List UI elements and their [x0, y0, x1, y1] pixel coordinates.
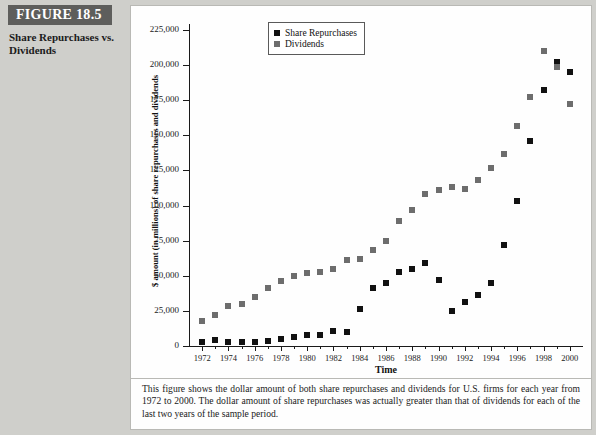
y-tick — [183, 30, 189, 31]
data-point — [488, 280, 494, 286]
data-point — [514, 198, 520, 204]
data-point — [422, 191, 428, 197]
x-tick — [255, 346, 256, 351]
data-point — [278, 278, 284, 284]
x-tick — [530, 346, 531, 349]
y-tick-label: 125,000 — [129, 164, 179, 174]
figure-page: FIGURE 18.5 Share Repurchases vs. Divide… — [0, 0, 596, 435]
data-point — [212, 337, 218, 343]
x-tick — [202, 346, 203, 351]
data-point — [239, 301, 245, 307]
x-tick — [425, 346, 426, 349]
data-point — [330, 266, 336, 272]
y-tick — [183, 65, 189, 66]
figure-number-label: FIGURE 18.5 — [16, 7, 102, 23]
data-point — [567, 101, 573, 107]
y-tick-label: 0 — [129, 340, 179, 350]
y-tick-label: 100,000 — [129, 200, 179, 210]
data-point — [330, 328, 336, 334]
data-point — [501, 151, 507, 157]
data-point — [567, 69, 573, 75]
x-tick — [307, 346, 308, 351]
data-point — [527, 94, 533, 100]
figure-sidebar: FIGURE 18.5 Share Repurchases vs. Divide… — [0, 0, 130, 435]
x-tick — [544, 346, 545, 351]
data-point — [225, 303, 231, 309]
data-point — [199, 339, 205, 345]
y-tick-label: 150,000 — [129, 129, 179, 139]
data-point — [501, 242, 507, 248]
x-tick — [281, 346, 282, 351]
data-point — [225, 339, 231, 345]
y-tick — [183, 311, 189, 312]
data-point — [383, 280, 389, 286]
data-point — [317, 332, 323, 338]
y-tick — [183, 241, 189, 242]
data-point — [239, 339, 245, 345]
chart-legend: Share Repurchases Dividends — [268, 22, 365, 55]
data-point — [449, 308, 455, 314]
y-tick — [183, 135, 189, 136]
data-point — [409, 207, 415, 213]
data-point — [304, 332, 310, 338]
x-tick — [333, 346, 334, 351]
y-tick-label: 50,000 — [129, 270, 179, 280]
data-point — [462, 299, 468, 305]
x-tick — [386, 346, 387, 351]
data-point — [449, 184, 455, 190]
x-axis-title: Time — [189, 364, 583, 375]
data-point — [554, 64, 560, 70]
x-tick — [347, 346, 348, 349]
x-tick-label: 2000 — [555, 353, 585, 363]
figure-subtitle: Share Repurchases vs. Dividends — [9, 31, 124, 57]
data-point — [462, 186, 468, 192]
legend-item-repurchases: Share Repurchases — [274, 28, 357, 38]
data-point — [383, 238, 389, 244]
data-point — [344, 329, 350, 335]
legend-label-dividends: Dividends — [285, 39, 324, 49]
data-point — [409, 266, 415, 272]
x-tick — [491, 346, 492, 351]
x-tick — [504, 346, 505, 349]
x-tick — [268, 346, 269, 349]
data-point — [488, 165, 494, 171]
data-point — [370, 247, 376, 253]
y-tick — [183, 346, 189, 347]
caption-divider — [131, 378, 593, 379]
page-right-edge — [592, 0, 596, 435]
x-tick — [228, 346, 229, 351]
x-tick — [373, 346, 374, 349]
x-tick — [215, 346, 216, 349]
data-point — [527, 138, 533, 144]
data-point — [541, 48, 547, 54]
x-tick — [360, 346, 361, 351]
data-point — [199, 318, 205, 324]
data-point — [514, 123, 520, 129]
x-tick — [294, 346, 295, 349]
data-point — [436, 187, 442, 193]
data-point — [317, 269, 323, 275]
data-point — [357, 256, 363, 262]
data-point — [370, 285, 376, 291]
data-point — [422, 260, 428, 266]
data-point — [291, 273, 297, 279]
data-point — [475, 177, 481, 183]
y-axis-line — [189, 24, 190, 346]
y-tick-label: 225,000 — [129, 24, 179, 34]
x-tick — [465, 346, 466, 351]
y-tick-label: 25,000 — [129, 305, 179, 315]
data-point — [265, 285, 271, 291]
figure-number-banner: FIGURE 18.5 — [8, 5, 112, 25]
x-tick — [412, 346, 413, 351]
y-tick-label: 175,000 — [129, 94, 179, 104]
data-point — [304, 270, 310, 276]
data-point — [541, 87, 547, 93]
x-tick — [517, 346, 518, 351]
x-tick — [478, 346, 479, 349]
legend-swatch-dividends-icon — [274, 41, 280, 47]
x-tick — [452, 346, 453, 349]
y-tick — [183, 206, 189, 207]
data-point — [212, 312, 218, 318]
data-point — [357, 306, 363, 312]
data-point — [396, 269, 402, 275]
